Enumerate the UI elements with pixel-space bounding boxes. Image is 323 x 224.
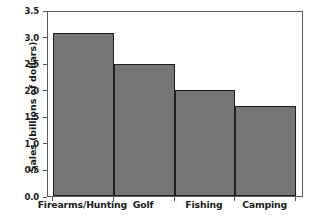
- x-axis-category-label: Golf: [133, 199, 154, 210]
- bar-chart-figure: Sales (billions of dollars) 0.00.51.01.5…: [0, 0, 323, 224]
- y-axis-tick-label: 2.0: [9, 86, 39, 96]
- y-axis-tick-label: 1.5: [9, 112, 39, 122]
- x-axis-category-labels: Firearms/HuntingGolfFishingCamping: [47, 199, 303, 219]
- bar: [235, 106, 296, 196]
- y-axis-tick-label: 2.5: [9, 59, 39, 69]
- bar: [114, 64, 175, 196]
- y-axis-tick-label: 3.5: [9, 6, 39, 16]
- x-axis-category-label: Camping: [242, 199, 287, 210]
- x-axis-category-label: Fishing: [185, 199, 222, 210]
- y-axis-tick-labels: 0.00.51.01.52.02.53.03.5: [0, 0, 47, 224]
- plot-area: [48, 12, 302, 196]
- y-axis-tick-label: 3.0: [9, 33, 39, 43]
- bar: [53, 33, 114, 196]
- y-axis-tick-label: 0.0: [9, 192, 39, 202]
- x-axis-category-label: Firearms/Hunting: [38, 199, 127, 210]
- y-axis-tick-label: 0.5: [9, 165, 39, 175]
- bar: [175, 90, 236, 196]
- y-axis-tick-label: 1.0: [9, 139, 39, 149]
- plot-frame: [47, 11, 303, 197]
